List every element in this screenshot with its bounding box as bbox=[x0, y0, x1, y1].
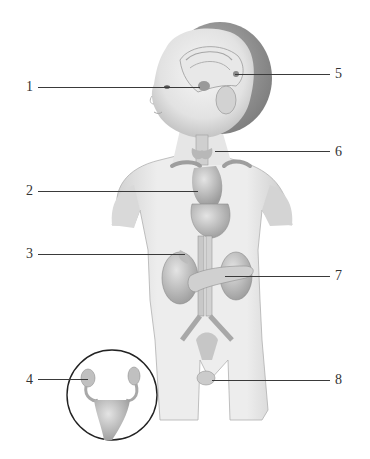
leader-line-7 bbox=[225, 276, 330, 277]
leader-line-8 bbox=[212, 380, 330, 381]
head bbox=[150, 22, 272, 138]
leader-line-6 bbox=[215, 151, 330, 152]
leader-line-5 bbox=[235, 74, 330, 75]
label-7: 7 bbox=[335, 269, 342, 283]
label-6: 6 bbox=[335, 145, 342, 159]
label-8: 8 bbox=[335, 373, 342, 387]
label-2: 2 bbox=[26, 184, 33, 198]
leader-line-3 bbox=[38, 254, 185, 255]
label-3: 3 bbox=[26, 247, 33, 261]
label-1: 1 bbox=[26, 80, 33, 94]
inset-female-reproductive bbox=[67, 350, 157, 440]
leader-line-4 bbox=[38, 379, 88, 380]
label-5: 5 bbox=[335, 67, 342, 81]
testes bbox=[197, 371, 215, 385]
leader-line-1 bbox=[38, 87, 200, 88]
label-4: 4 bbox=[26, 373, 33, 387]
body-illustration bbox=[0, 0, 370, 459]
leader-line-2 bbox=[38, 191, 198, 192]
diagram-canvas: 1 2 3 4 5 6 7 8 bbox=[0, 0, 370, 459]
